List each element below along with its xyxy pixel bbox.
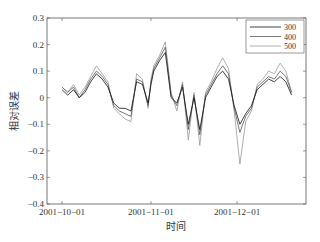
legend-label: 300 (284, 23, 296, 32)
y-tick-label: 0.2 (33, 40, 44, 50)
y-tick-label: 0.1 (33, 66, 44, 76)
legend-label: 400 (284, 33, 296, 42)
x-tick-label: 2001−12−01 (214, 207, 260, 217)
series-line-400 (62, 47, 292, 135)
y-tick-label: −0.1 (28, 119, 44, 129)
y-tick-label: −0.3 (28, 172, 45, 182)
y-axis-title: 相对误差 (8, 91, 20, 131)
x-axis-title: 时间 (166, 220, 186, 232)
x-axis-ticks: 2001−10−012001−11−012001−12−01 (39, 18, 260, 217)
series-lines (62, 42, 292, 164)
legend: 300400500 (246, 20, 304, 53)
y-tick-label: −0.2 (28, 146, 44, 156)
x-tick-label: 2001−10−01 (39, 207, 85, 217)
series-line-300 (62, 53, 292, 130)
line-chart: 0.30.20.10−0.1−0.2−0.3−0.4 2001−10−01200… (0, 0, 320, 242)
y-tick-label: 0 (40, 93, 45, 103)
legend-label: 500 (284, 42, 296, 51)
y-tick-label: 0.3 (33, 13, 45, 23)
x-tick-label: 2001−11−01 (128, 207, 174, 217)
